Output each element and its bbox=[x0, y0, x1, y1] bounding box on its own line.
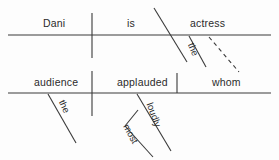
relative-clause-connector bbox=[209, 37, 239, 72]
word-predicate-nominative-actress: actress bbox=[190, 17, 225, 29]
word-subject-audience: audience bbox=[34, 76, 78, 88]
word-verb-applauded: applauded bbox=[117, 76, 168, 88]
word-verb-is: is bbox=[127, 17, 135, 29]
sentence-diagram: Dani is actress audience applauded whom … bbox=[0, 0, 279, 160]
word-subject-dani: Dani bbox=[43, 17, 65, 29]
word-direct-object-whom: whom bbox=[212, 76, 241, 88]
